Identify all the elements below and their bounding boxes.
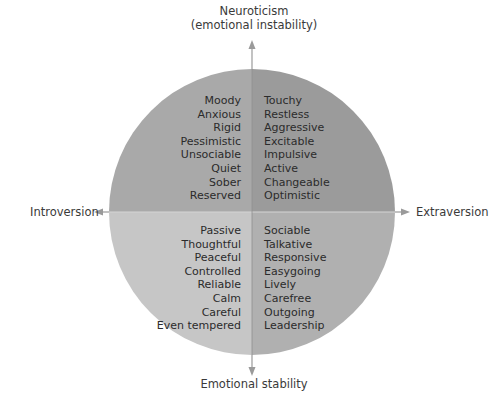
trait-item: Carefree [264,292,326,306]
trait-item: Aggressive [264,121,330,135]
trait-item: Quiet [181,162,241,176]
trait-item: Careful [157,306,241,320]
trait-item: Lively [264,278,326,292]
trait-item: Easygoing [264,265,326,279]
trait-list-top-right: Touchy Restless Aggressive Excitable Imp… [264,94,330,203]
axis-label-top-line1: Neuroticism [2,4,504,18]
axis-label-top-line2: (emotional instability) [2,18,504,32]
trait-item: Touchy [264,94,330,108]
trait-item: Thoughtful [157,238,241,252]
trait-list-top-left: Moody Anxious Rigid Pessimistic Unsociab… [181,94,241,203]
axis-label-extraversion: Extraversion [416,205,488,219]
trait-item: Talkative [264,238,326,252]
trait-item: Anxious [181,108,241,122]
trait-item: Rigid [181,121,241,135]
axis-label-introversion: Introversion [30,205,99,219]
axis-label-emotional-stability: Emotional stability [0,377,504,391]
personality-dimensions-diagram: Neuroticism (emotional instability) Emot… [0,0,504,413]
trait-item: Excitable [264,135,330,149]
trait-item: Sober [181,176,241,190]
arrow-right-icon [395,209,410,216]
trait-item: Changeable [264,176,330,190]
arrow-up-icon [249,40,256,69]
trait-item: Calm [157,292,241,306]
arrow-down-icon [249,355,256,376]
trait-list-bottom-right: Sociable Talkative Responsive Easygoing … [264,224,326,333]
trait-list-bottom-left: Passive Thoughtful Peaceful Controlled R… [157,224,241,333]
trait-item: Pessimistic [181,135,241,149]
trait-item: Impulsive [264,148,330,162]
axis-label-neuroticism: Neuroticism (emotional instability) [0,4,504,32]
trait-item: Moody [181,94,241,108]
trait-item: Optimistic [264,189,330,203]
trait-item: Unsociable [181,148,241,162]
trait-item: Controlled [157,265,241,279]
trait-item: Even tempered [157,319,241,333]
trait-item: Peaceful [157,251,241,265]
trait-item: Outgoing [264,306,326,320]
trait-item: Responsive [264,251,326,265]
trait-item: Sociable [264,224,326,238]
trait-item: Passive [157,224,241,238]
trait-item: Active [264,162,330,176]
trait-item: Leadership [264,319,326,333]
trait-item: Reserved [181,189,241,203]
trait-item: Reliable [157,278,241,292]
trait-item: Restless [264,108,330,122]
